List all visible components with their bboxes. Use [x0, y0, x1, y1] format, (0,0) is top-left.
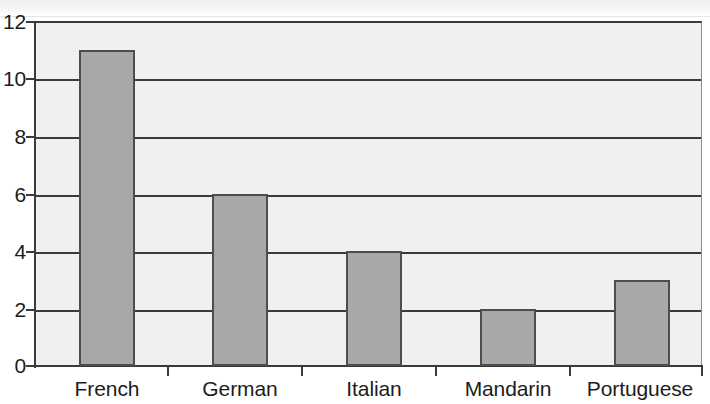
y-tick-10	[26, 78, 35, 80]
scan-artifact-strip	[0, 0, 710, 15]
bar-chart: 12 10 8 6 4 2 0 French German Italian Ma…	[0, 0, 710, 404]
y-axis-label-12: 12	[3, 11, 26, 32]
y-tick-12	[26, 21, 35, 23]
y-tick-0	[26, 365, 35, 367]
y-tick-2	[26, 309, 35, 311]
gridline-10	[36, 79, 701, 81]
x-tick-boundary-2	[301, 367, 303, 376]
x-axis-label-german: German	[170, 377, 310, 400]
x-axis-label-italian: Italian	[304, 377, 444, 400]
x-tick-boundary-4	[569, 367, 571, 376]
x-axis-label-mandarin: Mandarin	[438, 377, 578, 400]
x-axis-label-portuguese: Portuguese	[570, 377, 710, 400]
bar-portuguese	[614, 280, 670, 366]
y-axis-label-4: 4	[15, 241, 26, 262]
y-axis-label-0: 0	[15, 355, 26, 376]
y-tick-4	[26, 251, 35, 253]
bar-french	[79, 50, 135, 366]
x-tick-boundary-3	[435, 367, 437, 376]
y-axis-label-10: 10	[3, 68, 26, 89]
bar-italian	[346, 251, 402, 366]
gridline-6	[36, 195, 701, 197]
bar-mandarin	[480, 309, 536, 366]
scan-artifact-line	[0, 16, 710, 17]
y-axis-label-8: 8	[15, 126, 26, 147]
x-axis-label-french: French	[37, 377, 177, 400]
y-axis-label-2: 2	[15, 299, 26, 320]
x-tick-boundary-5	[701, 367, 703, 376]
y-tick-8	[26, 136, 35, 138]
y-tick-6	[26, 194, 35, 196]
x-tick-boundary-1	[167, 367, 169, 376]
y-axis-label-6: 6	[15, 184, 26, 205]
bar-german	[212, 194, 268, 366]
gridline-8	[36, 137, 701, 139]
